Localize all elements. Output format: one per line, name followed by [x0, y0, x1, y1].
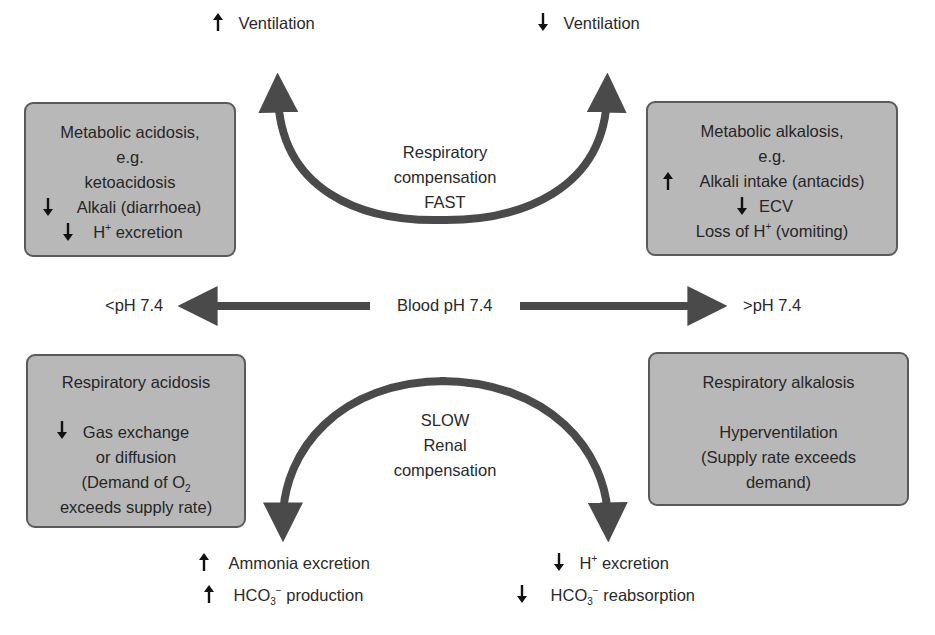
arrow-down-icon — [736, 196, 748, 216]
box-line: Gas exchange — [28, 420, 244, 445]
blood-ph-label: Blood pH 7.4 — [397, 296, 492, 315]
arc-label-line: Renal — [370, 433, 520, 458]
arrow-up-icon — [203, 584, 215, 604]
h-excretion-label: H+ excretion — [553, 552, 669, 573]
box-title: Metabolic acidosis, — [26, 120, 234, 145]
box-line: (Supply rate exceeds — [650, 445, 907, 470]
diagram-arrows — [0, 0, 935, 635]
box-title: Respiratory alkalosis — [650, 370, 907, 395]
box-line: Alkali (diarrhoea) — [26, 195, 234, 220]
arc-label-line: compensation — [370, 165, 520, 190]
box-line: H+ excretion — [26, 220, 234, 245]
respiratory-compensation-label: Respiratory compensation FAST — [370, 140, 520, 215]
arc-label-line: FAST — [370, 190, 520, 215]
respiratory-alkalosis-box: Respiratory alkalosis Hyperventilation (… — [648, 352, 909, 506]
respiratory-acidosis-box: Respiratory acidosis Gas exchange or dif… — [26, 354, 246, 528]
arrow-up-icon — [212, 12, 224, 32]
box-line: demand) — [650, 470, 907, 495]
arrow-down-icon — [62, 222, 74, 242]
arrow-down-icon — [537, 12, 549, 32]
box-line: (Demand of O2 — [28, 470, 244, 495]
arc-label-line: compensation — [370, 458, 520, 483]
arrow-up-icon — [198, 552, 210, 572]
arc-label-line: Respiratory — [370, 140, 520, 165]
arrow-up-icon — [662, 171, 674, 191]
box-line: ketoacidosis — [26, 170, 234, 195]
box-line: exceeds supply rate) — [28, 495, 244, 520]
box-line: e.g. — [648, 144, 896, 169]
low-ph-label: <pH 7.4 — [105, 296, 163, 315]
bicarbonate-reabsorption-label: HCO3− reabsorption — [516, 584, 695, 605]
box-line: ECV — [648, 194, 896, 219]
box-line: Loss of H+ (vomiting) — [648, 219, 896, 244]
arrow-down-icon — [553, 552, 565, 572]
box-line: Hyperventilation — [650, 420, 907, 445]
box-line: e.g. — [26, 145, 234, 170]
arrow-down-icon — [42, 197, 54, 217]
ammonia-excretion-label: Ammonia excretion — [198, 552, 370, 573]
arrow-down-icon — [516, 584, 528, 604]
box-line: or diffusion — [28, 445, 244, 470]
metabolic-alkalosis-box: Metabolic alkalosis, e.g. Alkali intake … — [646, 101, 898, 256]
box-line: Alkali intake (antacids) — [648, 169, 896, 194]
increased-ventilation-label: Ventilation — [212, 12, 315, 33]
decreased-ventilation-label: Ventilation — [537, 12, 640, 33]
bicarbonate-production-label: HCO3− production — [203, 584, 363, 605]
box-title: Metabolic alkalosis, — [648, 119, 896, 144]
renal-compensation-label: SLOW Renal compensation — [370, 408, 520, 483]
arrow-down-icon — [56, 420, 68, 440]
metabolic-acidosis-box: Metabolic acidosis, e.g. ketoacidosis Al… — [24, 102, 236, 257]
high-ph-label: >pH 7.4 — [743, 296, 801, 315]
arc-label-line: SLOW — [370, 408, 520, 433]
box-title: Respiratory acidosis — [28, 370, 244, 395]
